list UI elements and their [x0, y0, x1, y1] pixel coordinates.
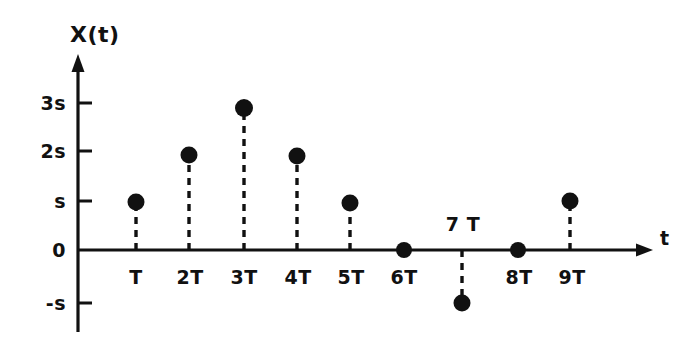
sample-dot-T: [128, 194, 145, 211]
stem-plot-figure: X(t) t 3s 2s s 0 -s: [0, 0, 692, 359]
x-tick-label-5T: 5T: [337, 266, 364, 288]
x-tick-label-7T: 7 T: [446, 213, 480, 235]
y-tick-label-minus-s: -s: [46, 292, 66, 314]
x-tick-label-6T: 6T: [390, 266, 417, 288]
x-axis-arrow-icon: [636, 244, 653, 257]
x-tick-label-T: T: [129, 266, 142, 288]
x-axis-label: t: [660, 227, 670, 249]
x-tick-label-9T: 9T: [558, 266, 585, 288]
y-tick-label-0: 0: [52, 239, 66, 261]
y-tick-label-2s: 2s: [40, 140, 66, 162]
sample-dot-5T: [342, 195, 359, 212]
sample-dot-2T: [181, 147, 198, 164]
y-axis-arrow-icon: [72, 54, 85, 72]
sample-dot-3T: [235, 99, 253, 117]
y-tick-label-s: s: [54, 190, 66, 212]
sample-dot-7T: [454, 295, 471, 312]
x-tick-label-2T: 2T: [176, 266, 203, 288]
x-tick-label-3T: 3T: [230, 266, 257, 288]
y-tick-label-3s: 3s: [40, 92, 66, 114]
sample-dot-4T: [289, 148, 306, 165]
page-title: X(t): [70, 22, 120, 47]
x-tick-label-4T: 4T: [284, 266, 311, 288]
sample-dot-8T: [510, 242, 526, 258]
sample-dot-9T: [562, 193, 579, 210]
stem-plot-canvas: X(t) t 3s 2s s 0 -s: [0, 0, 692, 359]
x-tick-label-8T: 8T: [505, 266, 532, 288]
sample-dot-6T: [396, 242, 412, 258]
